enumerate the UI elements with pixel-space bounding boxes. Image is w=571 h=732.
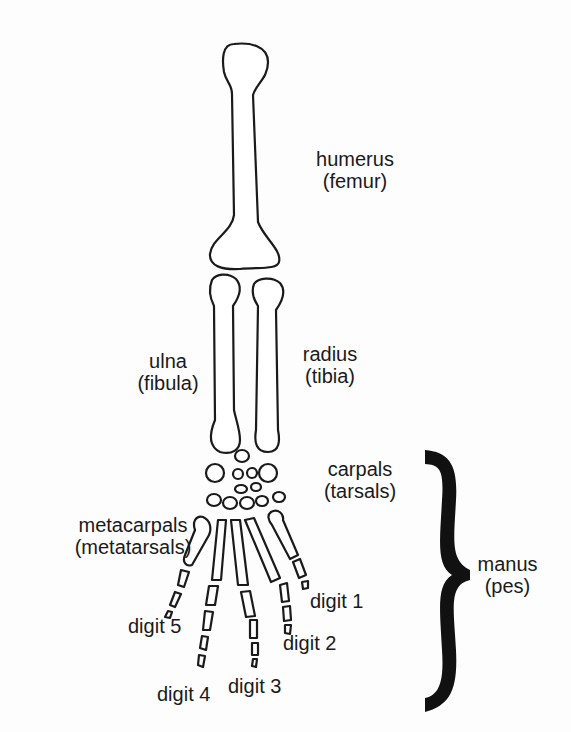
label-digit-3: digit 3 <box>228 675 281 697</box>
tibia-name: (tibia) <box>290 365 370 387</box>
metatarsals-name: (metatarsals) <box>63 536 203 558</box>
tarsals-name: (tarsals) <box>310 480 410 502</box>
carpal-bones <box>206 450 285 509</box>
humerus-bone <box>210 44 279 270</box>
label-digit-1: digit 1 <box>310 590 363 612</box>
limb-bone-diagram: humerus (femur) ulna (fibula) radius (ti… <box>0 0 571 732</box>
metacarpals-name: metacarpals <box>63 514 203 536</box>
label-digit-5: digit 5 <box>128 615 181 637</box>
label-ulna: ulna (fibula) <box>118 350 218 394</box>
label-humerus: humerus (femur) <box>300 148 410 192</box>
radius-bone <box>253 279 283 452</box>
manus-brace <box>425 450 470 712</box>
carpals-name: carpals <box>310 458 410 480</box>
label-radius: radius (tibia) <box>290 343 370 387</box>
label-metacarpals: metacarpals (metatarsals) <box>63 514 203 558</box>
label-digit-2: digit 2 <box>283 632 336 654</box>
ulna-name: ulna <box>118 350 218 372</box>
humerus-name: humerus <box>300 148 410 170</box>
fibula-name: (fibula) <box>118 372 218 394</box>
radius-name: radius <box>290 343 370 365</box>
pes-name: (pes) <box>470 575 545 597</box>
manus-name: manus <box>470 553 545 575</box>
label-carpals: carpals (tarsals) <box>310 458 410 502</box>
label-manus: manus (pes) <box>470 553 545 597</box>
skeleton-illustration <box>0 0 571 732</box>
femur-name: (femur) <box>300 170 410 192</box>
label-digit-4: digit 4 <box>157 683 210 705</box>
